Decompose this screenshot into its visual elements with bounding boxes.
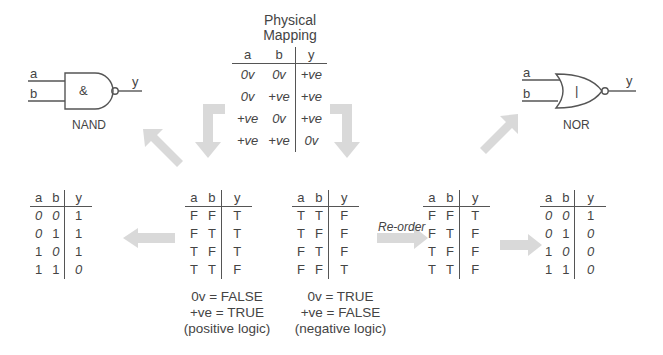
table-row: FTF	[292, 243, 359, 261]
table-row: TTF	[292, 207, 359, 226]
header-y: y	[328, 190, 359, 207]
nor-input-b-label: b	[523, 86, 530, 101]
cell: 0v	[295, 130, 327, 152]
cell: 0	[540, 207, 557, 226]
nand-label: NAND	[72, 118, 106, 132]
header-a: a	[232, 47, 263, 64]
cell: F	[328, 225, 359, 243]
header-y: y	[295, 47, 327, 64]
cell: 0v	[263, 64, 295, 87]
cell: T	[221, 243, 252, 261]
cell: 1	[540, 243, 557, 261]
cell: 1	[540, 261, 557, 279]
cell: 0	[557, 207, 575, 226]
table-row: TFT	[185, 243, 252, 261]
cell: T	[185, 261, 203, 279]
nand-input-b-label: b	[30, 86, 37, 101]
cell: F	[441, 207, 459, 226]
nor-gate-icon	[522, 74, 636, 108]
header-a: a	[423, 190, 441, 207]
arrow-right-icon	[500, 234, 542, 256]
table-row: FTF	[423, 225, 490, 243]
table-row: FFT	[292, 261, 359, 279]
cell: +ve	[232, 130, 263, 152]
cell: +ve	[295, 108, 327, 130]
cell: F	[328, 243, 359, 261]
cell: +ve	[263, 130, 295, 152]
header-a: a	[185, 190, 203, 207]
cell: T	[203, 261, 221, 279]
nor-label: NOR	[563, 118, 590, 132]
caption-line: 0v = FALSE	[172, 289, 282, 305]
table-row: +ve0v+ve	[232, 108, 327, 130]
cell: T	[221, 207, 252, 226]
nor-output-label: y	[626, 73, 633, 88]
reordered-table: aby FFT FTF TFF TTF	[423, 190, 490, 279]
cell: T	[310, 243, 328, 261]
cell: +ve	[295, 86, 327, 108]
positive-logic-caption: 0v = FALSE +ve = TRUE (positive logic)	[172, 289, 282, 337]
cell: 1	[47, 261, 65, 279]
cell: F	[310, 225, 328, 243]
nor-binary-table: aby 001 010 100 110	[540, 190, 606, 279]
table-row: 001	[30, 207, 92, 226]
cell: 1	[575, 207, 606, 226]
table-row: 0v0v+ve	[232, 64, 327, 87]
cell: 0v	[232, 64, 263, 87]
cell: 0	[47, 207, 65, 226]
cell: +ve	[263, 86, 295, 108]
negative-logic-caption: 0v = TRUE +ve = FALSE (negative logic)	[283, 289, 398, 337]
table-row: +ve+ve0v	[232, 130, 327, 152]
cell: T	[423, 261, 441, 279]
title-line-1: Physical	[240, 13, 340, 28]
cell: F	[459, 261, 490, 279]
nand-input-a-label: a	[30, 66, 37, 81]
arrow-up-right-icon	[480, 114, 518, 154]
table-row: 0v+ve+ve	[232, 86, 327, 108]
cell: 1	[30, 261, 47, 279]
nand-binary-table: aby 001 011 101 110	[30, 190, 92, 279]
arrow-up-left-icon	[143, 129, 183, 167]
header-b: b	[47, 190, 65, 207]
table-row: FFT	[423, 207, 490, 226]
cell: F	[459, 225, 490, 243]
cell: 0	[30, 207, 47, 226]
header-b: b	[441, 190, 459, 207]
cell: F	[423, 225, 441, 243]
cell: T	[292, 225, 310, 243]
cell: 1	[47, 225, 65, 243]
caption-line: 0v = TRUE	[283, 289, 398, 305]
nand-output-label: y	[132, 74, 139, 89]
nor-input-a-label: a	[523, 65, 530, 80]
cell: 0	[575, 243, 606, 261]
cell: T	[185, 243, 203, 261]
cell: F	[185, 207, 203, 226]
cell: T	[203, 225, 221, 243]
cell: F	[310, 261, 328, 279]
physical-mapping-table: a b y 0v0v+ve 0v+ve+ve +ve0v+ve +ve+ve0v	[232, 47, 327, 152]
cell: T	[221, 225, 252, 243]
nand-symbol: &	[79, 83, 88, 98]
cell: F	[203, 243, 221, 261]
cell: 1	[30, 243, 47, 261]
cell: 1	[65, 243, 92, 261]
arrow-down-left-icon	[195, 104, 225, 158]
cell: F	[292, 243, 310, 261]
table-row: 110	[540, 261, 606, 279]
cell: F	[221, 261, 252, 279]
header-b: b	[557, 190, 575, 207]
cell: 0	[47, 243, 65, 261]
table-row: 010	[540, 225, 606, 243]
arrow-left-icon	[123, 228, 175, 248]
header-b: b	[310, 190, 328, 207]
cell: F	[423, 207, 441, 226]
cell: T	[310, 207, 328, 226]
cell: F	[459, 243, 490, 261]
cell: T	[423, 243, 441, 261]
header-a: a	[540, 190, 557, 207]
cell: 1	[557, 261, 575, 279]
cell: +ve	[295, 64, 327, 87]
caption-line: +ve = TRUE	[172, 305, 282, 321]
cell: 1	[65, 225, 92, 243]
header-y: y	[221, 190, 252, 207]
